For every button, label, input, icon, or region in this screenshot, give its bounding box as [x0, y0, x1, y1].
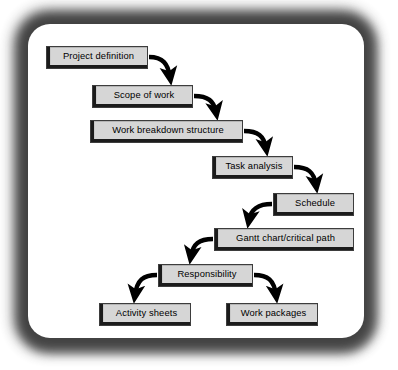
node-label: Work breakdown structure: [110, 125, 226, 134]
node-label: Schedule: [293, 198, 337, 207]
arrow-work-breakdown-to-task-analysis: [244, 131, 266, 148]
node-label: Project definition: [61, 51, 136, 60]
flow-node-work-breakdown-structure[interactable]: Work breakdown structure: [90, 120, 243, 143]
arrow-responsibility-to-activity-sheets: [135, 275, 157, 295]
flow-node-task-analysis[interactable]: Task analysis: [212, 156, 293, 179]
flow-node-gantt-critical-path[interactable]: Gantt chart/critical path: [214, 228, 354, 251]
arrow-gantt-to-responsibility: [191, 239, 213, 256]
arrow-schedule-to-gantt-critical-path: [249, 204, 272, 220]
arrow-project-definition-to-scope-of-work: [149, 57, 170, 77]
node-label: Activity sheets: [114, 308, 179, 317]
flow-node-responsibility[interactable]: Responsibility: [158, 264, 253, 287]
arrow-task-analysis-to-schedule: [294, 167, 316, 185]
arrow-responsibility-to-work-packages: [254, 275, 276, 295]
node-label: Task analysis: [223, 161, 284, 170]
flow-node-scope-of-work[interactable]: Scope of work: [92, 85, 193, 108]
flow-node-schedule[interactable]: Schedule: [273, 193, 354, 216]
node-label: Gantt chart/critical path: [234, 233, 337, 242]
node-label: Scope of work: [112, 90, 177, 99]
node-label: Work packages: [239, 308, 309, 317]
arrow-scope-of-work-to-work-breakdown: [194, 96, 216, 112]
flow-node-activity-sheets[interactable]: Activity sheets: [99, 303, 191, 326]
flowchart-diagram: Project definition Scope of work Work br…: [0, 0, 398, 370]
flow-node-project-definition[interactable]: Project definition: [46, 46, 148, 69]
flow-node-work-packages[interactable]: Work packages: [226, 303, 318, 326]
node-label: Responsibility: [175, 269, 238, 278]
